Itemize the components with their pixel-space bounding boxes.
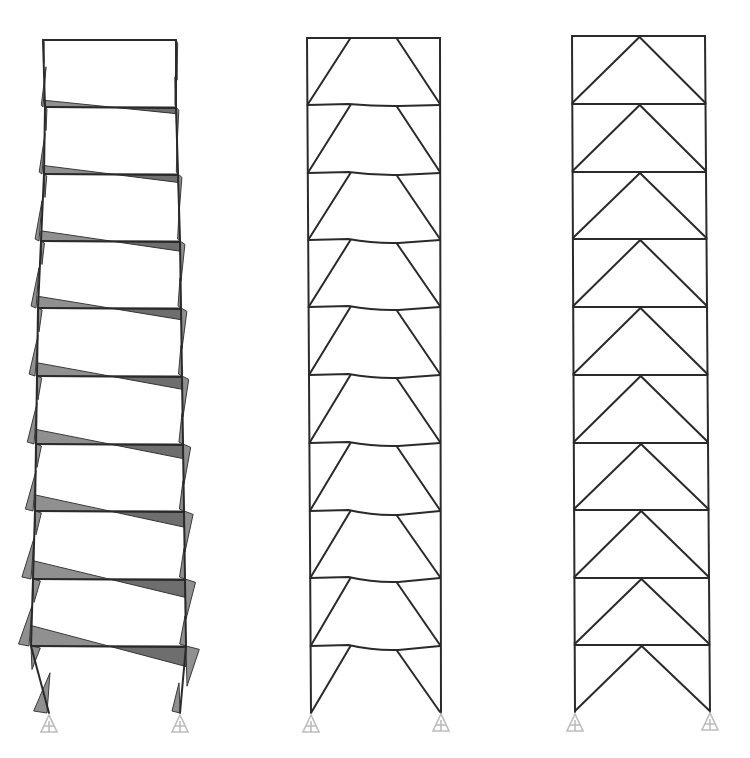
beam-moment-diagram bbox=[109, 646, 187, 667]
column-moment-diagram bbox=[186, 646, 199, 686]
column-right bbox=[185, 579, 186, 646]
column-left bbox=[44, 107, 45, 174]
brace-left bbox=[309, 173, 351, 239]
brace-right bbox=[640, 173, 706, 238]
beam-moment-diagram bbox=[41, 231, 111, 241]
beam-moment-diagram bbox=[37, 363, 110, 376]
brace-right bbox=[640, 240, 707, 306]
beam bbox=[38, 308, 181, 309]
brace-left bbox=[309, 240, 350, 306]
beam-moment-diagram bbox=[110, 376, 183, 389]
column-right bbox=[180, 241, 181, 308]
beam bbox=[311, 645, 440, 650]
brace-right bbox=[397, 446, 441, 510]
brace-left bbox=[311, 511, 351, 577]
brace-left bbox=[573, 105, 640, 171]
beam bbox=[308, 172, 440, 175]
brace-right bbox=[641, 579, 709, 644]
column-right bbox=[184, 511, 185, 579]
beam bbox=[31, 646, 186, 647]
brace-left bbox=[572, 37, 639, 103]
brace-left bbox=[574, 444, 641, 509]
brace-right bbox=[397, 243, 441, 306]
brace-right bbox=[397, 175, 441, 239]
brace-right bbox=[397, 106, 441, 172]
column-right bbox=[181, 308, 182, 376]
brace-right bbox=[642, 646, 710, 711]
brace-left bbox=[311, 578, 350, 645]
beam-moment-diagram bbox=[45, 100, 111, 107]
brace-left bbox=[310, 307, 351, 374]
brace-left bbox=[574, 308, 641, 374]
brace-left bbox=[574, 376, 641, 442]
beam-moment-diagram bbox=[109, 579, 185, 597]
beam bbox=[33, 579, 185, 580]
brace-right bbox=[397, 582, 441, 645]
brace-left bbox=[575, 579, 642, 644]
beam bbox=[45, 107, 176, 108]
structural-frames-diagram bbox=[0, 0, 750, 758]
brace-left bbox=[575, 646, 642, 711]
beam bbox=[309, 442, 440, 446]
beam bbox=[35, 511, 184, 512]
brace-right bbox=[397, 378, 441, 442]
beam-moment-diagram bbox=[36, 429, 110, 444]
beam-moment-diagram bbox=[44, 166, 111, 174]
beam bbox=[307, 104, 440, 106]
column-left bbox=[36, 376, 37, 444]
beam-moment-diagram bbox=[33, 561, 109, 579]
beam bbox=[310, 577, 440, 582]
pin-supports bbox=[41, 713, 718, 732]
beam-moment-diagram bbox=[38, 296, 110, 308]
column-right bbox=[183, 444, 184, 511]
moment-frame-with-moment-diagram bbox=[19, 40, 200, 713]
column-moment-diagram bbox=[35, 511, 41, 535]
beam bbox=[41, 241, 180, 242]
brace-right bbox=[640, 37, 706, 103]
beam-moment-diagram bbox=[110, 511, 185, 527]
column-left bbox=[37, 308, 38, 376]
brace-left bbox=[574, 511, 641, 577]
beam-moment-diagram bbox=[35, 495, 110, 511]
beam bbox=[44, 174, 178, 175]
column-moment-diagram bbox=[172, 683, 180, 713]
brace-left bbox=[310, 443, 350, 510]
beam bbox=[309, 374, 440, 378]
brace-right bbox=[640, 308, 707, 374]
inverted-v-braced-frame bbox=[572, 36, 710, 712]
brace-right bbox=[397, 38, 441, 104]
brace-left bbox=[310, 375, 351, 442]
beam bbox=[37, 376, 182, 377]
column-left bbox=[35, 444, 36, 511]
brace-right bbox=[640, 105, 706, 171]
beam bbox=[309, 306, 440, 310]
beam bbox=[308, 239, 440, 243]
brace-right bbox=[397, 515, 441, 577]
brace-right bbox=[397, 650, 441, 712]
braced-frame-deflected-beams bbox=[307, 38, 441, 713]
brace-right bbox=[641, 376, 708, 442]
beam-moment-diagram bbox=[110, 444, 184, 459]
column-moment-diagram bbox=[185, 579, 196, 619]
brace-left bbox=[308, 105, 350, 172]
beam-moment-diagram bbox=[31, 626, 109, 647]
column-right bbox=[182, 376, 183, 444]
brace-left bbox=[312, 646, 351, 712]
column-moment-diagram bbox=[19, 606, 33, 646]
brace-right bbox=[641, 444, 708, 509]
beam bbox=[310, 510, 440, 515]
brace-right bbox=[397, 310, 441, 374]
brace-right bbox=[641, 511, 709, 577]
column-moment-diagram bbox=[33, 579, 40, 602]
beam bbox=[36, 444, 183, 445]
brace-left bbox=[573, 173, 640, 238]
brace-left bbox=[573, 240, 640, 306]
brace-left bbox=[308, 38, 351, 104]
